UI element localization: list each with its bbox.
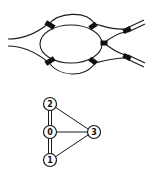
graph-node-2: 2 bbox=[44, 98, 57, 111]
diagram-canvas: 2 0 1 3 bbox=[0, 0, 152, 175]
junction-block-middle-right bbox=[101, 41, 108, 46]
ribbon-diagram bbox=[8, 14, 145, 74]
graph-node-0: 0 bbox=[44, 126, 57, 139]
junction-block-bottom-right bbox=[88, 57, 97, 66]
inner-loop bbox=[40, 25, 102, 63]
node-label: 2 bbox=[47, 100, 53, 109]
node-label: 0 bbox=[47, 128, 53, 137]
outer-top-arc bbox=[48, 14, 95, 25]
node-label: 3 bbox=[91, 128, 97, 137]
right-lower-inner-line bbox=[95, 58, 125, 63]
graph-node-3: 3 bbox=[88, 126, 101, 139]
right-upper-inner-line bbox=[95, 24, 125, 29]
node-label: 1 bbox=[47, 156, 53, 165]
graph-node-1: 1 bbox=[44, 154, 57, 167]
left-lower-line bbox=[8, 46, 48, 62]
edge-2-3 bbox=[55, 107, 88, 129]
graph-diagram: 2 0 1 3 bbox=[44, 98, 101, 167]
edge-1-3 bbox=[55, 135, 88, 157]
